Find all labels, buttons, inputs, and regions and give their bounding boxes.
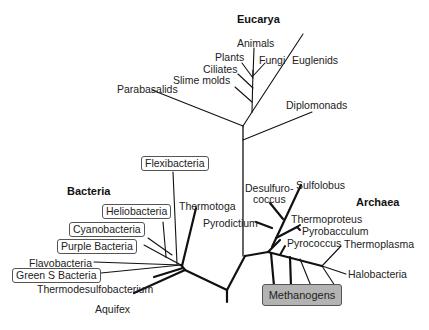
taxon-slime-molds: Slime molds xyxy=(173,74,230,86)
taxon-green-s-bacteria: Green S Bacteria xyxy=(12,268,101,283)
taxon-parabasalids: Parabasalids xyxy=(117,83,178,95)
taxon-flexibacteria: Flexibacteria xyxy=(141,156,209,171)
taxon-sulfolobus: Sulfolobus xyxy=(296,179,345,191)
taxon-aquifex: Aquifex xyxy=(95,303,130,315)
taxon-methanogens-box: Methanogens xyxy=(262,284,342,306)
taxon-diplomonads: Diplomonads xyxy=(286,99,347,111)
taxon-purple-bacteria: Purple Bacteria xyxy=(57,239,137,254)
taxon-halobacteria: Halobacteria xyxy=(348,268,407,280)
taxon-thermodesulfobacterium: Thermodesulfobacterium xyxy=(37,283,153,295)
taxon-thermotoga: Thermotoga xyxy=(179,200,236,212)
taxon-heliobacteria: Heliobacteria xyxy=(102,204,171,219)
taxon-animals: Animals xyxy=(237,37,274,49)
domain-label-eucarya: Eucarya xyxy=(237,13,280,25)
taxon-thermoproteus: Thermoproteus xyxy=(291,213,362,225)
taxon-fungi: Fungi xyxy=(259,54,285,66)
taxon-pyrodictium: Pyrodictium xyxy=(203,217,258,229)
taxon-pyrobacculum: Pyrobacculum xyxy=(302,225,369,237)
taxon-cyanobacteria: Cyanobacteria xyxy=(69,222,145,237)
taxon-plants: Plants xyxy=(215,51,244,63)
taxon-desulfurococcus-line2: coccus xyxy=(253,193,286,205)
taxon-pyrococcus: Pyrococcus xyxy=(287,237,341,249)
domain-label-bacteria: Bacteria xyxy=(67,185,110,197)
taxon-thermoplasma: Thermoplasma xyxy=(344,238,414,250)
domain-label-archaea: Archaea xyxy=(356,196,399,208)
taxon-euglenids: Euglenids xyxy=(292,54,338,66)
